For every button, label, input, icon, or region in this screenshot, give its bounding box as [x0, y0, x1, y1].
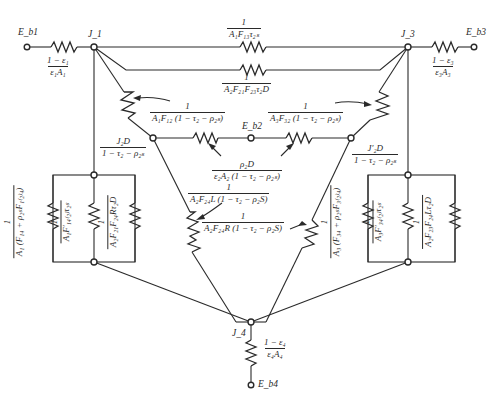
- label-eb3: E_b3: [466, 28, 486, 38]
- node-eb1: [24, 44, 30, 50]
- node-j2dprime: [348, 135, 354, 141]
- label-r-12: 1A₁F₁₂ (1 − τ₂ − ρ₂ₛ): [150, 102, 225, 124]
- right-parallel-box: [251, 47, 460, 322]
- node-eb4: [248, 382, 254, 388]
- wire-j1-j2d: [94, 47, 170, 138]
- node-eb2: [248, 135, 254, 141]
- node-j2d: [150, 135, 156, 141]
- label-r-32: 1A₃F₃₂ (1 − τ₂ − ρ₂ₛ): [268, 102, 343, 124]
- label-j2d-source: J₂D1 − τ₂ − ρ₂ₛ: [100, 137, 146, 159]
- label-r-surface-4: 1 − ε₄ε₄A₄: [262, 338, 288, 360]
- label-r-14-2: 1A₁F′₁₄₍₂₎τ₂ₛ: [50, 201, 72, 244]
- label-r-23-24l: 1A₂F₂₃F₂₄Lτ₂D: [412, 195, 434, 249]
- node-j4: [248, 319, 254, 325]
- node-right-bottom: [405, 259, 411, 265]
- node-eb3: [471, 44, 477, 50]
- node-j1: [91, 44, 97, 50]
- wire-j3-j2dprime: [335, 47, 408, 138]
- label-j4: J_4: [232, 329, 246, 339]
- label-r-surface-1: 1 − ε₁ε₁A₁: [45, 56, 71, 78]
- label-eb1: E_b1: [18, 28, 38, 38]
- label-r-34-2: 1A₃F′₃₄₍₂₎τ₂ₛ: [362, 201, 384, 244]
- node-right-top: [405, 172, 411, 178]
- label-eb4: E_b4: [258, 380, 278, 390]
- label-r-24l: 1A₂F₂₄L (1 − τ₂ − ρ₂S): [188, 183, 269, 205]
- node-left-bottom: [91, 259, 97, 265]
- label-j1: J_1: [88, 30, 102, 40]
- label-r-14: 1A₁ (F₁₄ + ρ₂ₛF₁₍₂₎₄): [3, 186, 25, 259]
- label-r-surface-3: 1 − ε₃ε₃A₃: [430, 56, 456, 78]
- wire-j1-j3-second: [94, 47, 408, 75]
- label-j2dprime-source: J′₂D1 − τ₂ − ρ₂ₛ: [352, 144, 398, 166]
- label-r-24r: 1A₂F₂₄R (1 − τ₂ − ρ₂S): [202, 212, 284, 234]
- label-eb2: E_b2: [242, 122, 262, 132]
- label-r-123: 1A₂F₂₁F₂₃τ₂D: [222, 73, 271, 95]
- label-r-13: 1A₁F₁₃τ₂ₛ: [227, 18, 261, 40]
- node-left-top: [91, 172, 97, 178]
- label-r-34: 1A₃ (F₃₄ + ρ₂ₛF₃₍₂₎₄): [320, 186, 342, 259]
- wire-j1-j3-top: [94, 42, 408, 52]
- label-j3: J_3: [401, 30, 415, 40]
- node-j3: [405, 44, 411, 50]
- wire-j3-eb3: [408, 42, 472, 52]
- wire-eb1-j1: [30, 42, 94, 52]
- label-r-21-24r: 1A₂F₂₁F₂₄Rτ₂D: [97, 195, 119, 249]
- label-r-2d-self: ρ₂Dε₂A₂ (1 − τ₂ − ρ₂ₛ): [212, 160, 282, 182]
